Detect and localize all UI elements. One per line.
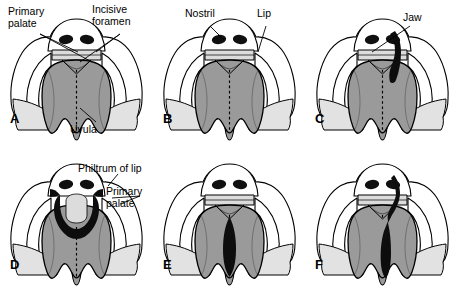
panel-letter-d: D: [10, 258, 19, 271]
panel-letter-f: F: [315, 258, 323, 271]
annotation-nostril: Nostril: [185, 8, 215, 20]
panel-b-drawing: [153, 0, 306, 145]
panel-f: [306, 145, 459, 290]
panel-letter-e: E: [163, 258, 172, 271]
panel-letter-c: C: [315, 112, 324, 125]
annotation-primary-palate: Primary palate: [8, 6, 44, 30]
panel-f-drawing: [306, 145, 459, 290]
annotation-lip: Lip: [257, 8, 271, 20]
panel-c-drawing: [306, 0, 459, 145]
annotation-primary-palate-d: Primary palate: [106, 186, 142, 210]
annotation-uvula: Uvula: [70, 124, 97, 136]
panel-b: [153, 0, 306, 145]
panel-e-drawing: [153, 145, 306, 290]
panel-c: [306, 0, 459, 145]
annotation-philtrum-of-lip: Philtrum of lip: [78, 163, 142, 175]
cleft-lip-palate-figure: ABCDEFPrimary palateIncisive foramenUvul…: [0, 0, 460, 290]
panel-letter-a: A: [10, 112, 19, 125]
annotation-incisive-foramen: Incisive foramen: [92, 4, 131, 28]
annotation-jaw: Jaw: [403, 12, 422, 24]
panel-e: [153, 145, 306, 290]
panel-letter-b: B: [163, 112, 172, 125]
